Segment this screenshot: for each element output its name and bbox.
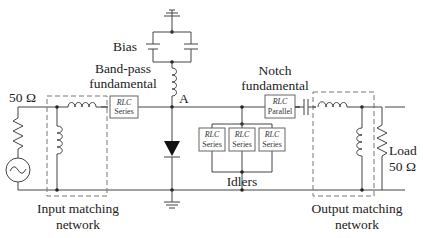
svg-text:Series: Series: [202, 140, 222, 149]
svg-text:Series: Series: [114, 107, 134, 116]
source-impedance-label: 50 Ω: [9, 90, 36, 105]
output-shunt-inductor-icon: [357, 107, 364, 192]
notch-rlc-block: RLC Parallel: [265, 95, 295, 118]
circuit-diagram: RLC Series: [0, 0, 423, 238]
varactor-diode-icon: [164, 107, 180, 192]
svg-text:Parallel: Parallel: [268, 107, 293, 116]
load-label-line2: 50 Ω: [389, 159, 416, 174]
idler-rlc-block-3: RLC Series: [259, 128, 285, 151]
idlers-label: Idlers: [227, 174, 258, 189]
input-series-inductor-icon: [68, 103, 108, 108]
input-shunt-inductor-icon: [55, 105, 62, 192]
svg-text:RLC: RLC: [234, 130, 250, 139]
svg-text:RLC: RLC: [116, 98, 132, 107]
input-network-label-line1: Input matching: [37, 201, 119, 216]
output-series-inductor-icon: [316, 99, 364, 109]
output-series-capacitor-icon: [295, 96, 318, 118]
input-matching-network-box: [47, 96, 107, 196]
ac-source-icon: [6, 158, 30, 190]
notch-label-line2: fundamental: [241, 78, 309, 93]
node-a-label: A: [179, 91, 189, 106]
output-network-label-line2: network: [335, 217, 379, 232]
idler-rlc-block-2: RLC Series: [229, 128, 255, 151]
output-network-label-line1: Output matching: [311, 201, 402, 216]
svg-text:RLC: RLC: [204, 130, 220, 139]
ground-icon: [164, 190, 180, 208]
bandpass-rlc-block: RLC Series: [110, 96, 138, 118]
bandpass-label-line2: fundamental: [89, 76, 157, 91]
bias-label: Bias: [113, 39, 137, 54]
svg-text:RLC: RLC: [272, 97, 288, 106]
bias-network: [146, 10, 198, 64]
idler-rlc-block-1: RLC Series: [199, 128, 225, 151]
input-network-label-line2: network: [56, 217, 100, 232]
svg-text:Series: Series: [232, 140, 252, 149]
svg-text:Series: Series: [262, 140, 282, 149]
source-resistor-icon: [13, 107, 23, 158]
bandpass-label-line1: Band-pass: [95, 61, 151, 76]
notch-label-line1: Notch: [259, 63, 292, 78]
svg-text:RLC: RLC: [264, 130, 280, 139]
bias-choke-inductor-icon: [170, 62, 176, 109]
load-label-line1: Load: [389, 143, 417, 158]
